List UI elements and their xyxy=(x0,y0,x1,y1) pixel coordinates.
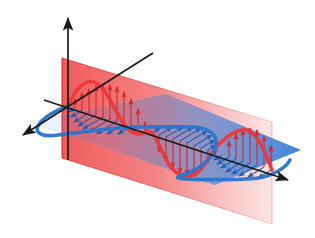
em-wave-figure xyxy=(0,0,315,238)
em-wave-svg xyxy=(0,0,315,238)
